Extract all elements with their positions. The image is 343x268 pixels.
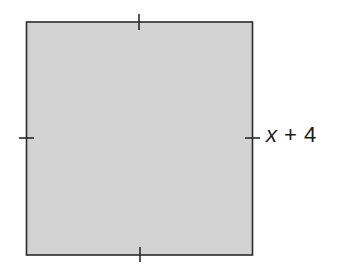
square [27, 22, 253, 255]
side-label-expression: + 4 [278, 122, 317, 147]
side-length-label: x + 4 [266, 122, 317, 148]
side-label-variable: x [266, 122, 278, 147]
